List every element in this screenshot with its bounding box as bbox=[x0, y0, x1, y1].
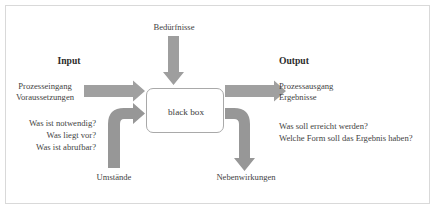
output-term-ergebnisse: Ergebnisse bbox=[279, 92, 317, 104]
arrow-needs-down bbox=[163, 36, 184, 85]
input-term-voraussetzungen: Voraussetzungen bbox=[7, 92, 83, 104]
output-question-form: Welche Form soll das Ergebnis haben? bbox=[279, 133, 413, 145]
arrow-sideeffects-elbow bbox=[225, 108, 255, 171]
output-question-erreicht: Was soll erreicht werden? bbox=[279, 121, 368, 133]
label-nebenwirkungen: Nebenwirkungen bbox=[204, 172, 288, 184]
label-beduerfnisse: Bedürfnisse bbox=[126, 22, 222, 34]
heading-output: Output bbox=[279, 55, 309, 66]
input-question-abrufbar: Was ist abrufbar? bbox=[2, 142, 96, 154]
diagram-canvas: black box Bedürfnisse Input Prozesseinga… bbox=[0, 0, 439, 216]
black-box: black box bbox=[146, 88, 224, 133]
output-term-prozessausgang: Prozessausgang bbox=[279, 81, 333, 93]
input-question-notwendig: Was ist notwendig? bbox=[2, 118, 96, 130]
label-umstaende: Umstände bbox=[78, 172, 150, 184]
input-term-prozesseingang: Prozesseingang bbox=[7, 81, 83, 93]
input-question-liegt-vor: Was liegt vor? bbox=[2, 130, 96, 142]
arrow-output-right bbox=[225, 81, 286, 102]
black-box-label: black box bbox=[147, 89, 225, 134]
heading-input: Input bbox=[40, 55, 98, 66]
arrow-circumstances-elbow bbox=[108, 103, 145, 168]
arrow-input-right bbox=[84, 81, 145, 102]
